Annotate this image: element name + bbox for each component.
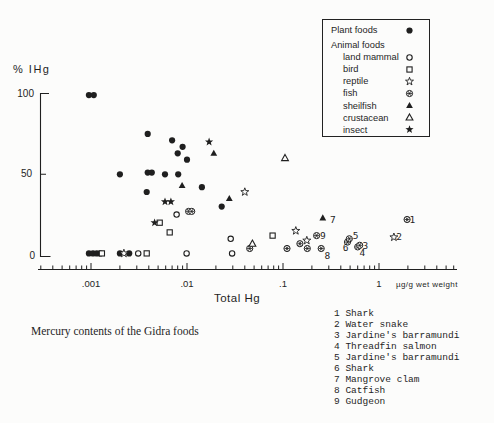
y-axis-label: % IHg xyxy=(13,63,50,75)
shellfish-marker xyxy=(179,182,186,188)
legend-row: land mammal xyxy=(323,51,429,63)
legend-row: Plant foods xyxy=(323,24,429,36)
x-axis-unit-label: µg/g wet weight xyxy=(396,280,458,289)
legend-plant-marker xyxy=(404,25,415,36)
plant-marker xyxy=(184,157,190,163)
point-number-label: 5 xyxy=(353,230,359,241)
food-key-list: 1 Shark2 Water snake3 Jardine's barramun… xyxy=(334,308,459,407)
point-number-label: 2 xyxy=(396,231,402,242)
point-number-label: 6 xyxy=(343,242,349,253)
bird-marker xyxy=(144,251,149,256)
series-plant xyxy=(86,92,225,257)
legend-label: insect xyxy=(343,124,367,136)
plant-marker xyxy=(406,27,412,33)
point-number-label: 4 xyxy=(359,247,365,258)
series-crustacean xyxy=(249,155,288,247)
legend-label: fish xyxy=(343,87,357,99)
legend-label: bird xyxy=(343,63,359,75)
legend-fish-marker xyxy=(404,88,415,99)
point-number-label: 8 xyxy=(325,250,331,261)
legend-row: Animal foods xyxy=(323,39,429,51)
food-key-item: 2 Water snake xyxy=(334,319,459,330)
insect-marker xyxy=(205,138,213,146)
x-tick-label-01: .01 xyxy=(167,278,207,289)
plant-marker xyxy=(199,184,205,190)
insect-marker xyxy=(161,197,169,205)
food-key-item: 7 Mangrove clam xyxy=(334,374,459,385)
legend-shellfish-marker xyxy=(404,100,415,111)
fish-marker xyxy=(406,90,412,96)
plant-marker xyxy=(175,171,181,177)
plant-marker xyxy=(219,204,225,210)
food-key-item: 9 Gudgeon xyxy=(334,396,459,407)
legend-bird-marker xyxy=(404,64,415,75)
point-number-label: 1 xyxy=(410,214,416,225)
insect-marker xyxy=(167,197,175,205)
figure-caption: Mercury contents of the Gidra foods xyxy=(31,325,199,337)
shellfish-marker xyxy=(226,195,233,201)
land_mammal-marker xyxy=(407,54,412,59)
legend-row: reptile xyxy=(323,75,429,87)
land_mammal-marker xyxy=(174,212,179,217)
legend-insect-marker xyxy=(404,124,415,135)
figure: 123456789 % IHg 100 50 0 .001 .01 .1 1 µ… xyxy=(0,0,494,423)
plant-marker xyxy=(126,250,132,256)
bird-marker xyxy=(99,251,104,256)
fish-marker xyxy=(304,245,310,251)
fish-marker xyxy=(318,245,324,251)
plant-marker xyxy=(144,189,150,195)
land_mammal-marker xyxy=(229,251,234,256)
point-number-labels: 123456789 xyxy=(320,214,416,261)
fish-marker xyxy=(297,241,303,247)
food-key-item: 6 Shark xyxy=(334,363,459,374)
legend-label: reptile xyxy=(343,75,368,87)
plant-marker xyxy=(91,92,97,98)
x-tick-label-unit-1: 1 xyxy=(359,278,399,289)
legend-label: Plant foods xyxy=(331,24,378,36)
crustacean-marker xyxy=(406,114,413,120)
food-key-item: 8 Catfish xyxy=(334,385,459,396)
food-key-item: 1 Shark xyxy=(334,308,459,319)
legend-land_mammal-marker xyxy=(404,52,415,63)
legend-box: Plant foodsAnimal foodsland mammalbirdre… xyxy=(322,19,430,137)
fish-marker xyxy=(189,208,195,214)
crustacean-marker xyxy=(282,155,289,161)
land_mammal-marker xyxy=(184,251,189,256)
shellfish-marker xyxy=(406,102,413,108)
plant-marker xyxy=(145,131,151,137)
legend-label: sheilfish xyxy=(343,100,377,112)
shellfish-marker xyxy=(210,150,217,156)
plant-marker xyxy=(175,150,181,156)
y-tick-label-50: 50 xyxy=(4,168,32,179)
legend-row: sheilfish xyxy=(323,100,429,112)
legend-row: fish xyxy=(323,87,429,99)
x-axis-title: Total Hg xyxy=(197,292,277,304)
legend-row: crustacean xyxy=(323,112,429,124)
legend-row: insect xyxy=(323,124,429,136)
reptile-marker xyxy=(241,188,249,196)
bird-marker xyxy=(167,230,172,235)
plant-marker xyxy=(180,144,186,150)
point-number-label: 7 xyxy=(330,214,336,225)
x-tick-label-001: .001 xyxy=(71,278,111,289)
fish-marker xyxy=(314,233,320,239)
food-key-item: 5 Jardine's barramundi xyxy=(334,352,459,363)
plant-marker xyxy=(162,171,168,177)
legend-crustacean-marker xyxy=(404,112,415,123)
y-tick-label-100: 100 xyxy=(4,88,34,99)
x-axis-ticks xyxy=(41,263,454,270)
crustacean-marker xyxy=(249,240,256,246)
land_mammal-marker xyxy=(228,236,233,241)
legend-label: Animal foods xyxy=(331,39,385,51)
x-tick-label-1: .1 xyxy=(263,278,303,289)
point-number-label: 9 xyxy=(320,230,326,241)
shellfish-marker xyxy=(319,214,326,220)
plant-marker xyxy=(169,137,175,143)
reptile-marker xyxy=(406,77,414,85)
insect-marker xyxy=(405,125,413,133)
plant-marker xyxy=(149,170,155,176)
food-key-item: 4 Threadfin salmon xyxy=(334,341,459,352)
legend-label: crustacean xyxy=(343,112,388,124)
y-tick-label-0: 0 xyxy=(6,250,35,261)
plant-marker xyxy=(117,171,123,177)
